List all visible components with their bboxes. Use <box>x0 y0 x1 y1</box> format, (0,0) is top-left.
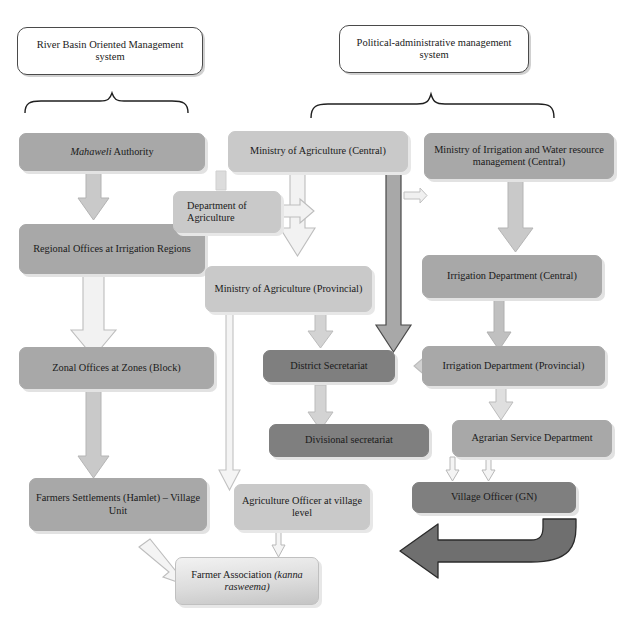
node-village-officer[interactable]: Village Officer (GN) <box>412 482 576 513</box>
farmer-association-rest: Farmer Association <box>191 569 274 580</box>
header-political-administrative-label: Political-administrative management syst… <box>346 37 522 62</box>
node-regional-offices-label: Regional Offices at Irrigation Regions <box>26 243 198 255</box>
brace-political <box>311 94 554 118</box>
node-zonal-offices[interactable]: Zonal Offices at Zones (Block) <box>19 347 214 389</box>
node-ministry-agriculture-central[interactable]: Ministry of Agriculture (Central) <box>228 131 408 172</box>
arrow-moacentral-to-deptagri <box>216 171 226 190</box>
arrow-regional-to-zonal <box>71 273 116 357</box>
connector-layer <box>0 0 635 640</box>
node-irrigation-department-provincial-label: Irrigation Department (Provincial) <box>429 360 598 372</box>
arrow-moaprovincial-to-district <box>308 312 333 348</box>
arrow-agrarian-to-village <box>482 458 495 481</box>
brace-river-basin <box>25 93 188 113</box>
mahaweli-rest: Authority <box>112 146 154 157</box>
node-ministry-agriculture-central-label: Ministry of Agriculture (Central) <box>235 145 401 157</box>
header-river-basin-label: River Basin Oriented Management system <box>24 39 196 64</box>
header-political-administrative: Political-administrative management syst… <box>339 25 529 73</box>
arrow-irrprov-to-agrarian <box>489 385 513 420</box>
node-mahaweli-authority-label: Mahaweli Authority <box>26 146 198 158</box>
diagram-canvas: River Basin Oriented Management system P… <box>0 0 635 640</box>
node-irrigation-department-central[interactable]: Irrigation Department (Central) <box>422 255 602 298</box>
arrow-moaprovincial-to-agriofficer <box>219 312 240 490</box>
node-mahaweli-authority[interactable]: Mahaweli Authority <box>19 133 205 171</box>
node-irrigation-department-provincial[interactable]: Irrigation Department (Provincial) <box>422 346 605 386</box>
arrow-agriofficer-to-association <box>272 530 285 557</box>
node-zonal-offices-label: Zonal Offices at Zones (Block) <box>26 362 207 374</box>
arrow-zonal-to-farmers <box>78 388 109 478</box>
node-ministry-irrigation-central[interactable]: Ministry of Irrigation and Water resourc… <box>424 133 614 179</box>
arrow-mahaweli-to-regional <box>78 170 109 220</box>
arrow-divisional-to-village <box>446 457 459 481</box>
arrow-moicentral-to-irrcentral <box>498 176 533 252</box>
node-agriculture-officer[interactable]: Agriculture Officer at village level <box>234 484 370 530</box>
node-district-secretariat[interactable]: District Secretariat <box>263 350 395 382</box>
node-ministry-agriculture-provincial[interactable]: Ministry of Agriculture (Provincial) <box>205 266 372 312</box>
node-district-secretariat-label: District Secretariat <box>270 360 388 372</box>
arrow-moacentral-right-stub <box>404 188 427 203</box>
node-ministry-agriculture-provincial-label: Ministry of Agriculture (Provincial) <box>212 283 365 295</box>
node-divisional-secretariat-label: Divisional secretariat <box>276 434 422 446</box>
node-department-of-agriculture-label: Department of Agriculture <box>180 200 274 224</box>
node-agriculture-officer-label: Agriculture Officer at village level <box>241 495 363 519</box>
node-department-of-agriculture[interactable]: Department of Agriculture <box>173 191 281 233</box>
header-river-basin: River Basin Oriented Management system <box>17 27 203 75</box>
node-farmer-association[interactable]: Farmer Association (kanna rasweema) <box>175 557 319 605</box>
mahaweli-italic: Mahaweli <box>70 146 111 157</box>
arrow-irrcentral-to-irrprov <box>487 297 511 350</box>
node-agrarian-service-department-label: Agrarian Service Department <box>459 432 605 444</box>
node-farmers-settlements-label: Farmers Settlements (Hamlet) – Village U… <box>36 492 200 516</box>
node-divisional-secretariat[interactable]: Divisional secretariat <box>269 424 429 457</box>
node-irrigation-department-central-label: Irrigation Department (Central) <box>429 270 595 282</box>
node-farmers-settlements[interactable]: Farmers Settlements (Hamlet) – Village U… <box>29 478 207 531</box>
node-farmer-association-label: Farmer Association (kanna rasweema) <box>182 569 312 593</box>
node-ministry-irrigation-central-label: Ministry of Irrigation and Water resourc… <box>431 144 607 168</box>
node-agrarian-service-department[interactable]: Agrarian Service Department <box>452 420 612 457</box>
node-village-officer-label: Village Officer (GN) <box>419 491 569 503</box>
